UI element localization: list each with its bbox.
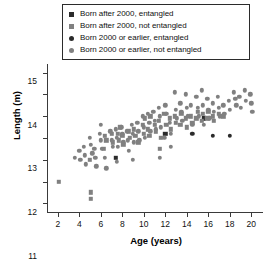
y-axis-tick: 9 [43,203,47,204]
data-point [168,145,172,149]
plot-area: 91011121314152468101214161820 [47,64,262,212]
data-point [147,121,151,125]
data-point [147,134,151,138]
data-point [189,103,193,107]
data-point [178,101,182,105]
data-point [250,110,254,114]
data-point [180,118,184,122]
data-point [77,149,81,153]
legend-item-label: Born 2000 or earlier, entangled [80,32,188,44]
data-point [110,145,114,149]
data-point [93,155,97,159]
data-point [228,108,232,112]
x-axis-tick [165,213,166,217]
y-axis-tick: 14 [43,94,47,95]
data-point [159,125,163,129]
data-point [131,158,135,162]
x-axis-tick [144,213,145,217]
x-axis-tick-label: 12 [161,219,170,229]
data-point [175,116,179,120]
data-point [211,110,215,114]
data-point [151,110,155,114]
x-axis-tick [101,213,102,217]
legend-item-label: Born 2000 or earlier, not entangled [80,44,201,56]
data-point [248,92,252,96]
x-axis-tick-label: 20 [247,219,256,229]
data-point [210,134,214,138]
x-axis-tick [122,213,123,217]
legend-item-label: Born after 2000, not entangled [80,20,187,32]
data-point [194,94,198,98]
data-point [243,88,247,92]
legend-circle-icon [67,48,76,53]
y-axis-spine [47,64,48,213]
y-axis-tick-label: 15 [28,76,37,86]
x-axis-tick [208,213,209,217]
data-point [237,94,241,98]
legend-circle-icon [67,36,76,41]
data-point [210,101,214,105]
legend-item: Born 2000 or earlier, entangled [67,32,244,44]
y-axis-tick: 11 [43,160,47,161]
data-point [99,123,103,127]
data-point [158,147,162,151]
data-point [116,145,120,149]
data-point [125,138,129,142]
legend-item-label: Born after 2000, entangled [80,8,173,20]
legend-square-icon [67,12,76,17]
data-point [232,90,236,94]
data-point [163,103,167,107]
y-axis-title: Length (m) [11,71,22,161]
data-point [244,99,248,103]
data-point [190,123,194,127]
x-axis-tick-label: 2 [55,219,60,229]
x-axis-title: Age (years) [45,235,267,246]
data-point [183,92,187,96]
data-point [135,121,139,125]
data-point [89,197,93,201]
data-point [88,158,92,162]
data-point [249,101,253,105]
data-point [57,179,61,183]
data-point [185,125,189,129]
x-axis-tick [230,213,231,217]
x-axis-tick-label: 16 [204,219,213,229]
data-point [201,103,205,107]
data-point [238,105,242,109]
data-point [148,129,152,133]
y-axis-tick: 15 [43,73,47,74]
data-point [221,103,225,107]
y-axis-tick-label: 12 [28,207,37,217]
legend-item: Born after 2000, not entangled [67,20,244,32]
legend-item: Born 2000 or earlier, not entangled [67,44,244,56]
x-axis-tick-label: 10 [139,219,148,229]
data-point [103,155,107,159]
data-point [178,123,182,127]
x-axis-tick-label: 4 [77,219,82,229]
data-point [162,136,166,140]
scatter-plot-figure: Born after 2000, entangledBorn after 200… [0,0,273,260]
x-axis-tick [187,213,188,217]
data-point [216,94,220,98]
data-point [115,160,119,164]
data-point [82,153,86,157]
x-axis-tick-label: 18 [225,219,234,229]
data-point [228,134,232,138]
legend-item: Born after 2000, entangled [67,8,244,20]
data-point [211,118,215,122]
data-point [94,164,98,168]
data-point [126,149,130,153]
data-point [158,155,162,159]
data-point [119,125,123,129]
data-point [81,145,85,149]
data-point [158,114,162,118]
y-axis-tick: 13 [43,116,47,117]
data-point [168,131,172,135]
y-axis-tick-label: 13 [28,163,37,173]
data-point [222,112,226,116]
data-point [173,90,177,94]
x-axis-tick [251,213,252,217]
data-point [202,123,206,127]
data-point [78,158,82,162]
data-point [99,138,103,142]
